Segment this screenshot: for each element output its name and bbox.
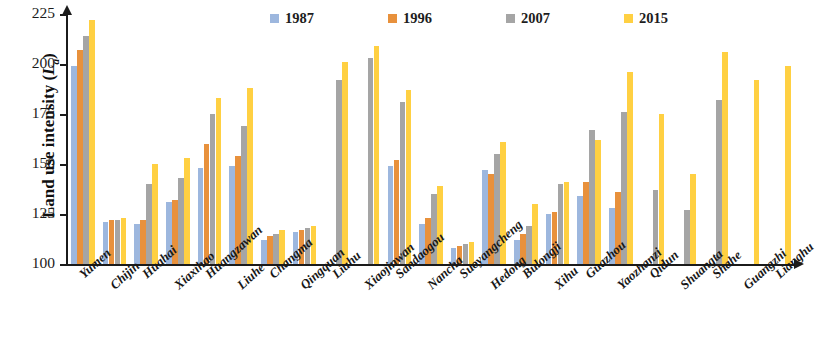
bar-group [577, 14, 609, 264]
y-tick-125: 125 [60, 214, 67, 216]
y-tick-label-200: 200 [32, 54, 55, 72]
bar[interactable] [204, 144, 210, 264]
y-tick-label-125: 125 [32, 204, 55, 222]
bar[interactable] [583, 182, 589, 264]
y-tick-label-225: 225 [32, 4, 55, 22]
bar[interactable] [198, 168, 204, 264]
y-tick-200: 200 [60, 64, 67, 66]
bar[interactable] [134, 224, 140, 264]
bar-group [419, 14, 451, 264]
bar-group [134, 14, 166, 264]
bar[interactable] [564, 182, 570, 264]
x-axis-labels: YumenChijinHuahaiXiaxihaoHuangzawanLiuhe… [66, 266, 803, 361]
bar-group [641, 14, 673, 264]
bar[interactable] [140, 220, 146, 264]
bar[interactable] [684, 210, 690, 264]
y-axis-title-main: Land use intensity ( [39, 75, 58, 218]
bar-group [704, 14, 736, 264]
bar[interactable] [261, 240, 267, 264]
bar[interactable] [595, 140, 601, 264]
bar-group [546, 14, 578, 264]
bar[interactable] [374, 46, 380, 264]
bar[interactable] [754, 80, 760, 264]
bar[interactable] [216, 98, 222, 264]
bar-group [451, 14, 483, 264]
bar-group [103, 14, 135, 264]
bar[interactable] [115, 220, 121, 264]
bar[interactable] [336, 80, 342, 264]
bar[interactable] [77, 50, 83, 264]
bar-group [609, 14, 641, 264]
bar-group [71, 14, 103, 264]
bar-group [736, 14, 768, 264]
bar[interactable] [71, 66, 77, 264]
bar[interactable] [577, 196, 583, 264]
bar[interactable] [690, 174, 696, 264]
bar-group [767, 14, 799, 264]
bar[interactable] [146, 184, 152, 264]
bar[interactable] [659, 114, 665, 264]
bar[interactable] [210, 114, 216, 264]
y-axis-title: Land use intensity (La) [39, 11, 60, 261]
bar[interactable] [437, 186, 443, 264]
y-tick-label-150: 150 [32, 154, 55, 172]
bar[interactable] [178, 178, 184, 264]
bars-layer [68, 14, 796, 264]
bar-group [672, 14, 704, 264]
bar[interactable] [400, 102, 406, 264]
bar-group [261, 14, 293, 264]
bar[interactable] [716, 100, 722, 264]
bar[interactable] [388, 166, 394, 264]
y-tick-225: 225 [60, 14, 67, 16]
bar[interactable] [184, 158, 190, 264]
bar[interactable] [89, 20, 95, 264]
bar[interactable] [406, 90, 412, 264]
bar[interactable] [342, 62, 348, 264]
y-tick-175: 175 [60, 114, 67, 116]
bar-group [166, 14, 198, 264]
bar-group [388, 14, 420, 264]
bar[interactable] [83, 36, 89, 264]
y-tick-label-100: 100 [32, 254, 55, 272]
bar[interactable] [785, 66, 791, 264]
bar[interactable] [121, 218, 127, 264]
bar[interactable] [722, 52, 728, 264]
bar[interactable] [368, 58, 374, 264]
bar-group [324, 14, 356, 264]
bar-group [198, 14, 230, 264]
y-tick-label-175: 175 [32, 104, 55, 122]
bar-group [293, 14, 325, 264]
bar-group [356, 14, 388, 264]
x-axis-label: Xihu [551, 263, 582, 293]
bar[interactable] [589, 130, 595, 264]
bar[interactable] [152, 164, 158, 264]
bar[interactable] [627, 72, 633, 264]
plot-area: 225200175150125100 [66, 14, 799, 266]
bar[interactable] [267, 236, 273, 264]
y-tick-150: 150 [60, 164, 67, 166]
